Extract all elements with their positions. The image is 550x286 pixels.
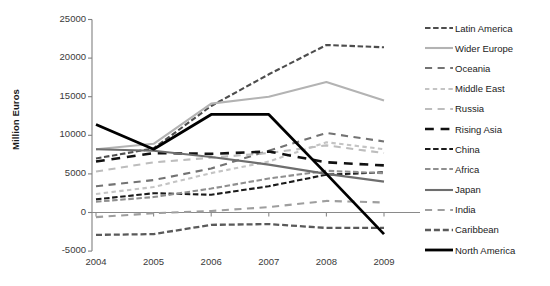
legend-line-swatch-icon bbox=[424, 103, 454, 115]
legend-line-swatch-icon bbox=[424, 244, 454, 256]
legend-line-swatch-icon bbox=[424, 123, 454, 135]
series-line bbox=[96, 145, 384, 171]
legend-item-label: Latin America bbox=[454, 23, 513, 34]
legend-item-label: Africa bbox=[454, 164, 479, 175]
legend-line-swatch-icon bbox=[424, 83, 454, 95]
legend-item[interactable]: Africa bbox=[424, 159, 548, 179]
legend-item[interactable]: Russia bbox=[424, 99, 548, 119]
legend-item[interactable]: Caribbean bbox=[424, 220, 548, 240]
legend-item[interactable]: Wider Europe bbox=[424, 38, 548, 58]
series-line bbox=[96, 45, 384, 158]
legend-line-swatch-icon bbox=[424, 42, 454, 54]
series-line bbox=[96, 201, 384, 217]
legend-line-swatch-icon bbox=[424, 62, 454, 74]
series-line bbox=[96, 224, 384, 235]
legend-line-swatch-icon bbox=[424, 224, 454, 236]
legend-item-label: China bbox=[454, 144, 480, 155]
legend-item[interactable]: Japan bbox=[424, 180, 548, 200]
legend-item-label: Caribbean bbox=[454, 224, 499, 235]
series-line bbox=[96, 133, 384, 186]
legend-item[interactable]: Oceania bbox=[424, 58, 548, 78]
legend-line-swatch-icon bbox=[424, 143, 454, 155]
series-line bbox=[96, 152, 384, 166]
legend-item-label: Japan bbox=[454, 184, 481, 195]
legend-item-label: Rising Asia bbox=[454, 124, 502, 135]
legend-item[interactable]: Rising Asia bbox=[424, 119, 548, 139]
legend-item-label: North America bbox=[454, 245, 515, 256]
legend-line-swatch-icon bbox=[424, 204, 454, 216]
legend-item-label: Middle East bbox=[454, 83, 505, 94]
legend-item[interactable]: Latin America bbox=[424, 18, 548, 38]
legend-line-swatch-icon bbox=[424, 184, 454, 196]
line-chart: Million Euros 2500020000150001000050000-… bbox=[0, 0, 550, 286]
legend-item[interactable]: Middle East bbox=[424, 79, 548, 99]
chart-legend: Latin AmericaWider EuropeOceaniaMiddle E… bbox=[424, 18, 548, 260]
legend-item-label: Russia bbox=[454, 103, 484, 114]
legend-item[interactable]: North America bbox=[424, 240, 548, 260]
legend-item-label: Wider Europe bbox=[454, 43, 513, 54]
legend-line-swatch-icon bbox=[424, 163, 454, 175]
legend-item-label: Oceania bbox=[454, 63, 490, 74]
legend-item-label: India bbox=[454, 204, 476, 215]
legend-line-swatch-icon bbox=[424, 22, 454, 34]
legend-item[interactable]: India bbox=[424, 200, 548, 220]
legend-item[interactable]: China bbox=[424, 139, 548, 159]
